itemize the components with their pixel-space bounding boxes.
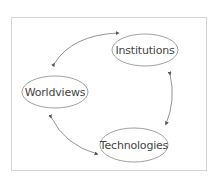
arrow-worldviews-institutions <box>54 33 118 64</box>
technologies-label: Technologies <box>100 139 168 152</box>
worldviews-label: Worldviews <box>25 86 86 99</box>
arrow-institutions-technologies <box>166 74 172 124</box>
arrow-technologies-worldviews <box>51 117 97 154</box>
institutions-label: Institutions <box>115 44 174 57</box>
